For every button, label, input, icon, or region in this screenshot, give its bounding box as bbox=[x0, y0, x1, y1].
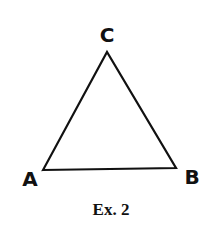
vertex-label-c: C bbox=[100, 23, 115, 47]
diagram-canvas: C A B Ex. 2 bbox=[0, 0, 215, 228]
vertex-label-a: A bbox=[22, 167, 38, 191]
figure-caption: Ex. 2 bbox=[93, 200, 130, 219]
triangle-figure: C A B Ex. 2 bbox=[0, 0, 215, 228]
vertex-label-b: B bbox=[184, 165, 199, 189]
triangle-abc bbox=[43, 52, 176, 170]
